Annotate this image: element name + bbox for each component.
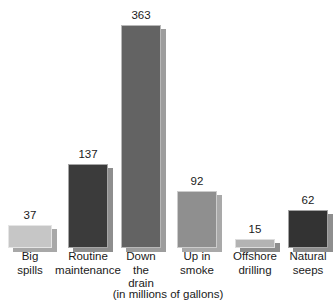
bar[interactable] xyxy=(235,239,275,248)
bar-value-label: 137 xyxy=(78,148,97,160)
bar-group[interactable]: 15 xyxy=(235,239,275,248)
bar[interactable] xyxy=(68,164,108,248)
bar-value-label: 37 xyxy=(24,209,37,221)
bar[interactable] xyxy=(121,25,161,248)
bar[interactable] xyxy=(8,225,52,248)
bar-group[interactable]: 92 xyxy=(177,191,217,248)
bar-chart: 37137363921562 BigspillsRoutinemaintenan… xyxy=(0,0,336,304)
bar[interactable] xyxy=(177,191,217,248)
bar[interactable] xyxy=(288,210,328,248)
bar-value-label: 363 xyxy=(131,9,150,21)
category-label-line: seeps xyxy=(274,264,336,278)
category-label: Naturalseeps xyxy=(274,250,336,277)
plot-area: 37137363921562 xyxy=(0,0,336,248)
bar-value-label: 15 xyxy=(249,223,262,235)
category-label-line: Natural xyxy=(274,250,336,264)
bar-group[interactable]: 363 xyxy=(121,25,161,248)
chart-caption: (in millions of gallons) xyxy=(0,288,336,301)
bar-value-label: 92 xyxy=(191,175,204,187)
bar-group[interactable]: 37 xyxy=(8,225,52,248)
bar-group[interactable]: 137 xyxy=(68,164,108,248)
bar-value-label: 62 xyxy=(302,194,315,206)
bar-group[interactable]: 62 xyxy=(288,210,328,248)
